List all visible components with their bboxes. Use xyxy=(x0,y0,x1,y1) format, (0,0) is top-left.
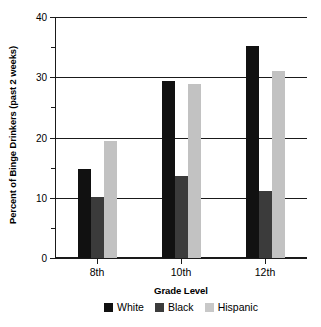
legend-item-white: White xyxy=(104,301,144,313)
bar-white-12th xyxy=(246,46,259,258)
y-tick-major xyxy=(50,77,55,78)
x-tick xyxy=(181,258,182,264)
y-tick-label: 40 xyxy=(36,12,47,23)
y-tick-label: 30 xyxy=(36,72,47,83)
bar-group xyxy=(162,17,201,258)
x-tick-label: 10th xyxy=(171,266,191,278)
x-tick-label: 12th xyxy=(255,266,275,278)
y-tick-label: 20 xyxy=(36,132,47,143)
y-tick-major xyxy=(50,258,55,259)
bar-black-12th xyxy=(259,191,272,258)
y-tick-minor xyxy=(51,228,55,229)
bar-chart: Percent of Binge Drinkers (past 2 weeks)… xyxy=(0,0,321,327)
legend-label: Hispanic xyxy=(218,301,258,313)
legend-label: White xyxy=(117,301,144,313)
y-axis-title: Percent of Binge Drinkers (past 2 weeks) xyxy=(4,4,22,266)
chart-legend: WhiteBlackHispanic xyxy=(55,301,307,313)
bar-hispanic-10th xyxy=(188,84,201,258)
y-tick-minor xyxy=(51,168,55,169)
bar-group xyxy=(78,17,117,258)
y-tick-minor xyxy=(51,47,55,48)
legend-swatch-icon xyxy=(104,303,113,312)
bar-hispanic-12th xyxy=(272,71,285,258)
x-tick xyxy=(97,258,98,264)
x-axis-title: Grade Level xyxy=(55,285,307,296)
y-tick-label: 0 xyxy=(41,253,47,264)
x-tick-label: 8th xyxy=(90,266,105,278)
bar-group xyxy=(246,17,285,258)
bar-hispanic-8th xyxy=(104,141,117,258)
y-tick-label: 10 xyxy=(36,192,47,203)
y-tick-major xyxy=(50,198,55,199)
legend-label: Black xyxy=(168,301,194,313)
bar-white-10th xyxy=(162,81,175,258)
legend-item-hispanic: Hispanic xyxy=(205,301,258,313)
y-tick-major xyxy=(50,138,55,139)
bar-black-10th xyxy=(175,176,188,258)
y-tick-minor xyxy=(51,107,55,108)
x-tick xyxy=(265,258,266,264)
bar-white-8th xyxy=(78,169,91,258)
legend-swatch-icon xyxy=(205,303,214,312)
legend-swatch-icon xyxy=(155,303,164,312)
bar-black-8th xyxy=(91,197,104,258)
plot-area: 010203040 8th10th12th xyxy=(55,17,307,258)
y-tick-major xyxy=(50,17,55,18)
legend-item-black: Black xyxy=(155,301,194,313)
